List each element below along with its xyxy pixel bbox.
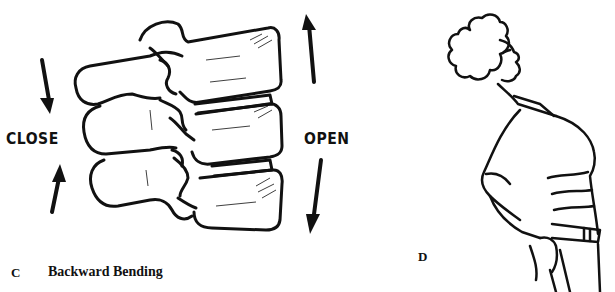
arrow-down-icon [42, 60, 49, 100]
open-label: OPEN [304, 130, 349, 148]
close-label: CLOSE [6, 130, 59, 148]
panel-c-caption: Backward Bending [48, 264, 163, 280]
panel-d-letter: D [418, 249, 427, 265]
panel-c-letter: C [11, 265, 20, 281]
